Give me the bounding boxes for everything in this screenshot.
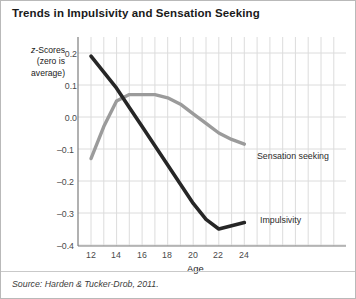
chart-axes xyxy=(78,37,346,246)
figure-panel: Trends in Impulsivity and Sensation Seek… xyxy=(0,0,356,299)
chart-plot-area xyxy=(1,1,356,299)
chart-gridlines xyxy=(78,37,346,246)
series-label-sensation-seeking: Sensation seeking xyxy=(257,151,329,161)
footer-divider xyxy=(1,271,356,272)
source-caption: Source: Harden & Tucker-Drob, 2011. xyxy=(12,279,159,289)
series-label-impulsivity: Impulsivity xyxy=(260,215,301,225)
